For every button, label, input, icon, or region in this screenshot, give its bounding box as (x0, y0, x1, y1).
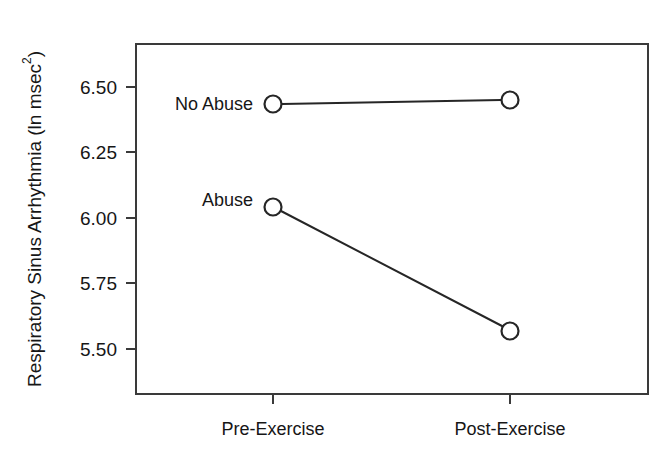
data-point-no-abuse-pre-exercise (265, 96, 282, 113)
x-tick-label-0: Pre-Exercise (221, 419, 324, 439)
series-label-no-abuse: No Abuse (175, 94, 253, 114)
y-tick-label-0: 6.50 (80, 77, 117, 98)
data-point-abuse-post-exercise (502, 323, 519, 340)
y-axis-tick-labels: 6.50 6.25 6.00 5.75 5.50 (80, 77, 117, 360)
y-axis-title-group: Respiratory Sinus Arrhythmia (ln msec2) (20, 51, 45, 387)
y-axis-ticks (126, 87, 136, 349)
y-axis-title: Respiratory Sinus Arrhythmia (ln msec2) (20, 51, 45, 387)
y-tick-label-1: 6.25 (80, 142, 117, 163)
series-label-abuse: Abuse (202, 190, 253, 210)
y-tick-label-2: 6.00 (80, 208, 117, 229)
line-chart-canvas: 6.50 6.25 6.00 5.75 5.50 Respiratory Sin… (0, 0, 669, 467)
y-axis-title-close: ) (24, 51, 45, 57)
series-no-abuse-segment (282, 100, 501, 104)
y-tick-label-3: 5.75 (80, 273, 117, 294)
chart-figure: 6.50 6.25 6.00 5.75 5.50 Respiratory Sin… (0, 0, 669, 467)
series-abuse-segment (281, 211, 502, 326)
series-annotations: No Abuse Abuse (175, 94, 253, 210)
y-axis-title-main: Respiratory Sinus Arrhythmia (ln msec (24, 64, 45, 387)
data-point-no-abuse-post-exercise (502, 92, 519, 109)
data-point-abuse-pre-exercise (265, 199, 282, 216)
x-axis-ticks (273, 394, 510, 404)
x-tick-label-1: Post-Exercise (454, 419, 565, 439)
x-axis-tick-labels: Pre-Exercise Post-Exercise (221, 419, 565, 439)
series-no-abuse (265, 92, 519, 113)
series-abuse (265, 199, 519, 340)
y-tick-label-4: 5.50 (80, 339, 117, 360)
